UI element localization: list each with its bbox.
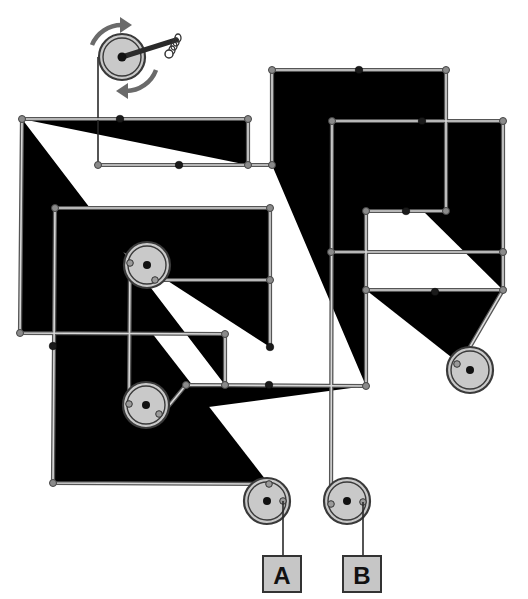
arrow-head-icon: [116, 83, 128, 99]
linkage-diagram: A B: [0, 0, 528, 599]
output-a-label: A: [273, 562, 290, 589]
arrow-head-icon: [120, 17, 132, 33]
crank-assembly[interactable]: [92, 17, 181, 99]
output-b[interactable]: B: [343, 556, 381, 592]
wheel-upper-left: [124, 242, 170, 288]
crank-hub: [118, 53, 127, 62]
output-a[interactable]: A: [263, 556, 301, 592]
wheel-right: [447, 347, 493, 393]
rods: [20, 70, 503, 504]
crank-handle-spring-icon: [165, 34, 181, 58]
diagram-canvas: A B: [0, 0, 528, 599]
wheel-lower-left: [123, 382, 169, 428]
output-b-label: B: [353, 562, 370, 589]
